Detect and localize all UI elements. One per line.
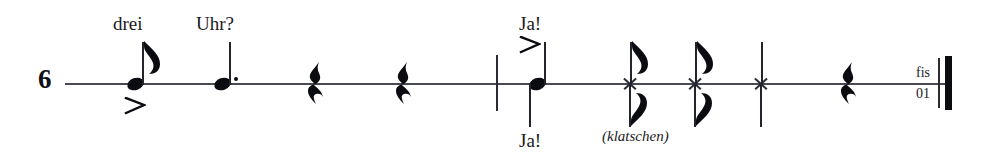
final-thick (945, 56, 952, 110)
note-2-stem-up (229, 42, 231, 85)
note-2-augmentation-dot (234, 77, 238, 81)
rest-2 (393, 60, 415, 108)
note-5-flag-up (696, 40, 716, 74)
end-label-top: fis (908, 66, 938, 80)
barline-mid (496, 55, 498, 111)
note-3-stem-down (529, 84, 531, 127)
note-3-stem-up (544, 42, 546, 85)
lyric-above-1: Uhr? (196, 14, 234, 33)
note-3-accent-mark (519, 36, 541, 54)
lyric-below-3: Ja! (519, 131, 541, 150)
system-number: 6 (38, 66, 52, 93)
note-4-flag-down (630, 91, 650, 125)
end-label-bottom: 01 (908, 87, 938, 101)
note-1-flag-up (143, 40, 163, 74)
rest-3 (838, 60, 860, 108)
music-notation-system: 6 dreiUhr?Ja!Ja!(klatschen)fis01 (0, 0, 984, 163)
lyric-above-2: Ja! (519, 14, 541, 33)
final-thin (938, 58, 940, 108)
note-6-stem-up (761, 42, 763, 85)
staff-line (65, 83, 945, 85)
note-6-stem-down (760, 84, 762, 127)
lyric-above-0: drei (113, 14, 143, 33)
rest-1 (305, 60, 327, 108)
note-1-accent-mark (124, 97, 146, 115)
note-5-flag-down (695, 91, 715, 125)
note-4-flag-up (631, 40, 651, 74)
technique-label-0: (klatschen) (602, 129, 669, 144)
